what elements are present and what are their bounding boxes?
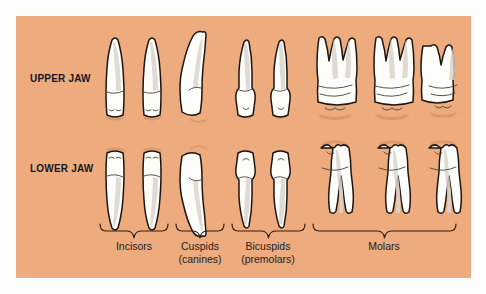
group-subtitle-bicuspids: (premolars) (241, 253, 295, 266)
diagram-panel (16, 16, 471, 278)
group-name-incisors: Incisors (116, 240, 152, 252)
group-name-molars: Molars (368, 240, 400, 252)
lower-jaw-label: LOWER JAW (30, 163, 93, 174)
group-label-text-incisors: Incisors (116, 240, 152, 253)
group-label-text-cuspids: Cuspids(canines) (178, 240, 221, 266)
group-label-text-molars: Molars (368, 240, 400, 253)
group-name-cuspids: Cuspids (181, 240, 219, 252)
tooth-anatomy-figure: UPPER JAW LOWER JAW IncisorsCuspids(cani… (0, 0, 486, 294)
group-subtitle-cuspids: (canines) (178, 253, 221, 266)
group-label-text-bicuspids: Bicuspids(premolars) (241, 240, 295, 266)
group-name-bicuspids: Bicuspids (246, 240, 291, 252)
upper-jaw-label: UPPER JAW (30, 73, 91, 84)
